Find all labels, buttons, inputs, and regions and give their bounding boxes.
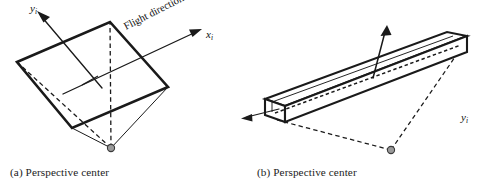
perspective-center-marker-a (107, 144, 114, 151)
x-axis-label-a: xi (206, 28, 213, 42)
y-axis-subscript-a: i (35, 7, 37, 16)
linear-array-dashed-line-b (275, 45, 461, 113)
panel-a-frame-image: Flight direction xi yi (a) Perspective c… (0, 0, 239, 187)
panel-b-linear-array-image: Flight direction xi yi (b) Perspective c… (239, 0, 478, 187)
strip-top-face-b (265, 32, 467, 106)
y-axis-subscript-b: i (466, 116, 468, 125)
y-axis-label-a: yi (30, 2, 37, 16)
panel-b-drawing (239, 0, 478, 187)
caption-a: (a) Perspective center (10, 166, 109, 178)
x-axis-subscript-a: i (211, 33, 213, 42)
image-plane-quad-a (17, 22, 168, 128)
y-axis-label-b: yi (461, 111, 468, 125)
panel-a-drawing (0, 0, 239, 187)
perspective-center-marker-b (387, 146, 394, 153)
caption-b: (b) Perspective center (257, 166, 357, 178)
figure-root: Flight direction xi yi (a) Perspective c… (0, 0, 478, 187)
